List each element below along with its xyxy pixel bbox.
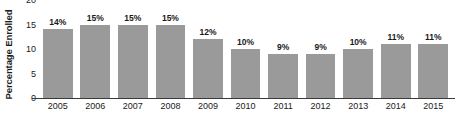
y-axis-title-text: Percentage Enrolled — [4, 9, 15, 99]
plot-area: 14%15%15%15%12%10%9%9%10%11%11% — [39, 0, 452, 98]
y-axis-tick-20: 20 — [26, 0, 36, 5]
x-axis-tick-2014: 2014 — [377, 101, 415, 121]
bar — [43, 29, 73, 98]
bar-slot: 10% — [227, 0, 265, 98]
bar-value-label: 15% — [77, 13, 115, 23]
bar-value-label: 14% — [39, 17, 77, 27]
bar-slot: 11% — [414, 0, 452, 98]
y-axis-tick-10: 10 — [26, 44, 36, 54]
bar-value-label: 9% — [302, 42, 340, 52]
bar-value-label: 12% — [189, 27, 227, 37]
bar-series: 14%15%15%15%12%10%9%9%10%11%11% — [39, 0, 452, 98]
x-axis-tick-labels: 2005200620072008200920102011201220132014… — [39, 101, 452, 121]
y-axis-tick-labels: 05101520 — [19, 0, 36, 98]
bar-value-label: 11% — [377, 32, 415, 42]
x-axis-line — [32, 98, 455, 99]
bar-slot: 9% — [302, 0, 340, 98]
bar-value-label: 15% — [114, 13, 152, 23]
bar-value-label: 15% — [152, 13, 190, 23]
bar-slot: 14% — [39, 0, 77, 98]
x-axis-tick-2011: 2011 — [264, 101, 302, 121]
bar-slot: 12% — [189, 0, 227, 98]
bar-slot: 10% — [339, 0, 377, 98]
y-axis-title: Percentage Enrolled — [0, 0, 18, 108]
x-axis-tick-2013: 2013 — [339, 101, 377, 121]
bar-value-label: 11% — [414, 32, 452, 42]
bar-slot: 15% — [114, 0, 152, 98]
x-axis-tick-2005: 2005 — [39, 101, 77, 121]
y-axis-tick-5: 5 — [31, 69, 36, 79]
x-axis-tick-2008: 2008 — [152, 101, 190, 121]
bar-slot: 15% — [152, 0, 190, 98]
bar-chart: Percentage Enrolled 05101520 14%15%15%15… — [0, 0, 455, 123]
x-axis-tick-2006: 2006 — [77, 101, 115, 121]
x-axis-tick-2010: 2010 — [227, 101, 265, 121]
bar — [381, 44, 411, 98]
x-axis-tick-2009: 2009 — [189, 101, 227, 121]
bar — [231, 49, 261, 98]
bar-value-label: 9% — [264, 42, 302, 52]
bar-slot: 15% — [77, 0, 115, 98]
bar — [268, 54, 298, 98]
bar — [80, 25, 110, 99]
x-axis-tick-2012: 2012 — [302, 101, 340, 121]
bar — [193, 39, 223, 98]
bar — [306, 54, 336, 98]
x-axis-tick-2015: 2015 — [414, 101, 452, 121]
x-axis-tick-2007: 2007 — [114, 101, 152, 121]
bar — [118, 25, 148, 99]
bar-slot: 11% — [377, 0, 415, 98]
y-axis-tick-15: 15 — [26, 20, 36, 30]
bar-slot: 9% — [264, 0, 302, 98]
bar-value-label: 10% — [339, 37, 377, 47]
bar-value-label: 10% — [227, 37, 265, 47]
bar — [156, 25, 186, 99]
bar — [418, 44, 448, 98]
bar — [343, 49, 373, 98]
